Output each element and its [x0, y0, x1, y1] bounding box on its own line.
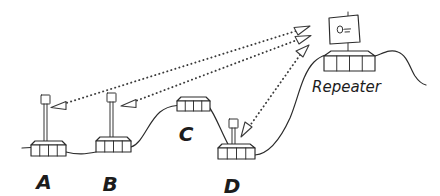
- node-a-chassis-top: [31, 141, 66, 145]
- beam-a-repeater-arrowhead-near-a: [51, 102, 66, 110]
- network-diagram: A B C: [0, 0, 440, 196]
- node-c[interactable]: C: [177, 97, 210, 146]
- node-a-label: A: [34, 170, 51, 194]
- node-c-chassis-top: [177, 97, 210, 101]
- cable-c-to-d: [209, 107, 230, 148]
- node-c-label: C: [179, 122, 194, 146]
- node-b-label: B: [102, 172, 117, 196]
- cable-d-to-repeater: [255, 55, 326, 155]
- beam-d-repeater-line: [249, 55, 300, 127]
- beam-d-repeater-arrowhead-near-d: [241, 122, 252, 137]
- node-b-chassis-top: [96, 137, 131, 141]
- node-d[interactable]: D: [218, 119, 255, 196]
- beam-b-repeater-arrowhead-near-b: [121, 100, 136, 108]
- node-d-antenna-head: [229, 119, 238, 128]
- repeater-chassis-top: [324, 51, 375, 56]
- node-b[interactable]: B: [96, 93, 131, 196]
- cable-b-to-c: [131, 106, 177, 148]
- cable-a-to-b: [66, 152, 96, 154]
- cable-repeater-onward: [375, 51, 426, 85]
- node-a-antenna-head: [41, 95, 50, 104]
- beam-a-repeater-line: [63, 31, 296, 104]
- node-a[interactable]: A: [31, 95, 66, 194]
- repeater-label: Repeater: [312, 78, 382, 96]
- beam-d-repeater-arrowhead-near-repeater: [296, 45, 309, 57]
- beam-b-repeater-arrowhead-near-repeater: [295, 36, 311, 45]
- diagram-canvas: A B C: [0, 0, 440, 196]
- beam-a-repeater-arrowhead-near-repeater: [294, 26, 310, 35]
- wireless-link-b-repeater: [121, 36, 311, 108]
- cable-stub-left: [22, 148, 31, 149]
- node-d-chassis-top: [218, 144, 255, 148]
- node-d-label: D: [224, 174, 241, 196]
- node-repeater[interactable]: Repeater: [312, 12, 382, 96]
- node-b-antenna-head: [107, 93, 116, 102]
